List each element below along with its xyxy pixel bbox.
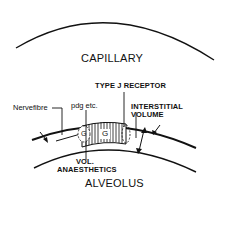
pdg-label: pdg etc.: [71, 102, 98, 110]
capillary-label: CAPILLARY: [81, 53, 143, 64]
g-small-label: G: [81, 130, 86, 137]
interstitial-label-line2: VOLUME: [131, 111, 164, 119]
interstitial-double-arrow: [139, 130, 144, 151]
g-large-label: G: [102, 130, 108, 138]
type-j-receptor-label: TYPE J RECEPTOR: [95, 82, 166, 90]
anaesthetics-label: ANAESTHETICS: [57, 166, 117, 174]
alveolus-label: ALVEOLUS: [85, 178, 144, 189]
nerve-fibre-label: Nervefibre: [13, 104, 48, 112]
nerve-arrow-head: [43, 137, 48, 143]
